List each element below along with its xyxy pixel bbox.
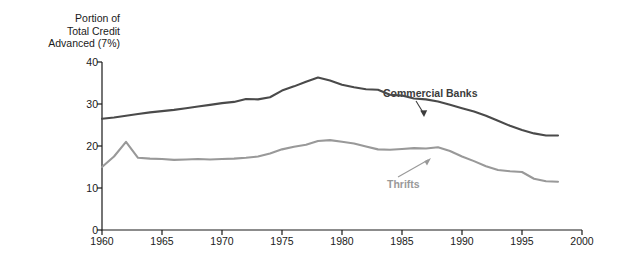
axis-lines: [97, 62, 582, 235]
chart-page: Portion of Total Credit Advanced (7%) 40…: [0, 0, 618, 260]
annotation-arrow-commercial-banks: [416, 101, 427, 117]
series-line-commercial-banks: [102, 78, 558, 136]
series-line-thrifts: [102, 140, 558, 182]
chart-plot-area: [0, 0, 618, 260]
annotation-arrow-thrifts: [398, 158, 431, 177]
